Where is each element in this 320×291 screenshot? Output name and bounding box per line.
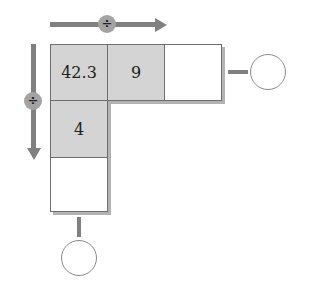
arrow-right-icon: [155, 18, 167, 32]
cell-dividend: 42.3: [50, 44, 108, 101]
cell-result-horizontal[interactable]: [164, 44, 222, 101]
cell-result-vertical[interactable]: [50, 157, 108, 212]
answer-circle-right[interactable]: [250, 54, 286, 90]
arrow-down-icon: [27, 148, 41, 160]
cell-divisor-horizontal: 9: [107, 44, 165, 101]
divide-operator-vertical: ÷: [24, 92, 42, 110]
cell-divisor-vertical: 4: [50, 100, 108, 158]
answer-circle-bottom[interactable]: [61, 240, 97, 276]
connector-bottom: [77, 217, 81, 237]
clipped-instruction-text: [48, 0, 218, 5]
divide-operator-horizontal: ÷: [98, 15, 116, 33]
connector-right: [228, 70, 248, 74]
